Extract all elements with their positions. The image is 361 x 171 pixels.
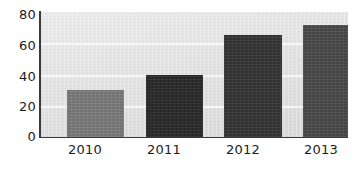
bar-2013 [303,25,348,138]
bars-layer [40,12,348,137]
y-axis-tick-label: 20 [2,100,36,113]
x-axis-tick-label: 2011 [134,143,194,157]
y-axis-tick-label: 60 [2,39,36,52]
x-axis-tick-label: 2010 [55,143,115,157]
bar-2012 [224,35,282,137]
y-axis-tick-label: 0 [2,130,36,143]
y-axis-tick-label: 40 [2,70,36,83]
y-axis-tick-label: 80 [2,8,36,21]
x-axis-tick-label: 2013 [291,143,351,157]
bar-2011 [146,75,203,138]
y-axis-line [39,11,41,138]
bar-chart-figure: 80 60 40 20 0 2010 2011 2012 2013 [0,0,361,171]
plot-area [40,12,348,137]
bar-2010 [67,90,124,137]
x-axis-tick-label: 2012 [213,143,273,157]
x-axis-line [39,137,348,139]
